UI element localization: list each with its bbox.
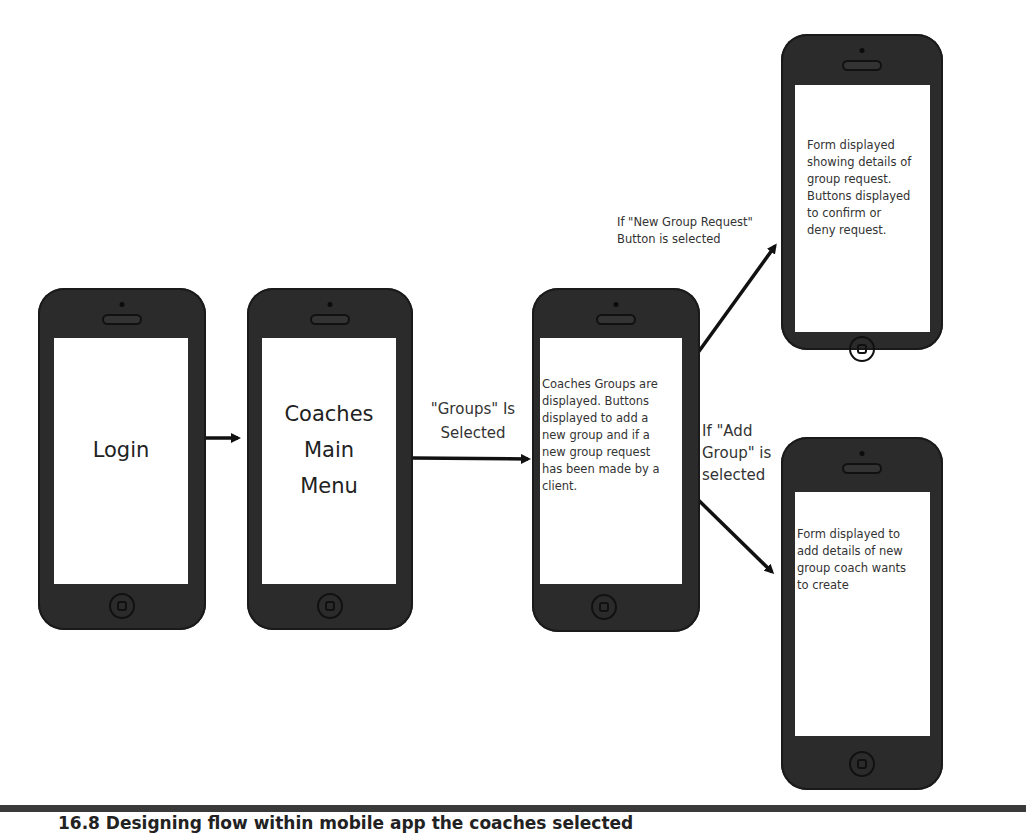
home-button-icon: [849, 336, 875, 362]
speaker-icon: [596, 314, 636, 325]
camera-icon: [614, 302, 619, 307]
screen-main-menu: Coaches Main Menu: [262, 338, 396, 584]
screen-groups: Coaches Groups are displayed. Buttons di…: [540, 338, 682, 584]
speaker-icon: [310, 314, 350, 325]
speaker-icon: [842, 463, 882, 474]
phone-main-menu: Coaches Main Menu: [247, 288, 413, 630]
screen-label-line: Main: [262, 432, 396, 468]
arrow-menu-to-groups: [413, 458, 528, 459]
home-button-icon: [591, 594, 617, 620]
home-button-icon: [317, 593, 343, 619]
divider: [0, 805, 1026, 812]
camera-icon: [860, 451, 865, 456]
screen-login: Login: [54, 338, 188, 584]
phone-group-request: Form displayed showing details of group …: [781, 34, 943, 350]
screen-description-add-group: Form displayed to add details of new gro…: [797, 526, 929, 594]
transition-label-add-group: If "Add Group" is selected: [702, 420, 771, 486]
screen-label-login: Login: [54, 434, 188, 467]
home-button-icon: [849, 751, 875, 777]
transition-label-new-group-request: If "New Group Request" Button is selecte…: [617, 214, 753, 248]
screen-label-line: Coaches: [262, 396, 396, 432]
screen-label-line: Menu: [262, 468, 396, 504]
camera-icon: [120, 302, 125, 307]
screen-description-group-request: Form displayed showing details of group …: [807, 137, 929, 239]
speaker-icon: [842, 60, 882, 71]
camera-icon: [328, 302, 333, 307]
screen-group-request: Form displayed showing details of group …: [795, 85, 930, 332]
transition-label-groups-selected: "Groups" Is Selected: [414, 397, 532, 445]
figure-caption: 16.8 Designing flow within mobile app th…: [58, 813, 633, 833]
home-button-icon: [109, 593, 135, 619]
phone-add-group: Form displayed to add details of new gro…: [781, 437, 943, 790]
screen-description-groups: Coaches Groups are displayed. Buttons di…: [542, 376, 682, 495]
phone-groups: Coaches Groups are displayed. Buttons di…: [532, 288, 700, 632]
phone-login: Login: [38, 288, 206, 630]
camera-icon: [860, 48, 865, 53]
screen-label-main-menu: Coaches Main Menu: [262, 396, 396, 504]
speaker-icon: [102, 314, 142, 325]
screen-add-group: Form displayed to add details of new gro…: [795, 492, 930, 736]
